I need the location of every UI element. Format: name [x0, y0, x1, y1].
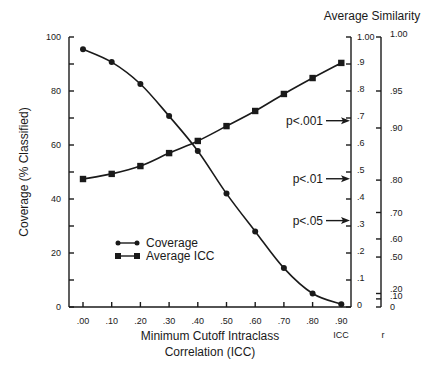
x-tick-label: .60: [249, 316, 262, 326]
icc-tick-label: .7: [357, 111, 365, 121]
x-tick-label: .20: [134, 316, 147, 326]
icc-tick-label: .5: [357, 165, 365, 175]
left-y-axis: 020406080100: [46, 32, 74, 312]
square-marker: [80, 176, 86, 182]
icc-tick-label: .2: [357, 246, 365, 256]
x-axis-title-line1: Minimum Cutoff Intraclass: [141, 329, 280, 343]
dual-axis-line-chart: 020406080100 .00.10.20.30.40.50.60.70.80…: [0, 0, 447, 368]
r-tick-label: 1.00: [390, 29, 408, 39]
circle-marker: [310, 291, 316, 297]
x-axis: .00.10.20.30.40.50.60.70.80.90: [69, 302, 351, 326]
square-marker: [137, 163, 143, 169]
circle-marker: [338, 301, 344, 307]
significance-label: p<.05: [293, 214, 324, 228]
x-tick-label: .70: [278, 316, 291, 326]
icc-tick-label: .4: [357, 192, 365, 202]
y-tick-label: 20: [51, 248, 61, 258]
x-tick-label: .10: [105, 316, 118, 326]
legend: CoverageAverage ICC: [115, 236, 215, 263]
y-tick-label: 100: [46, 32, 61, 42]
significance-label: p<.001: [286, 114, 323, 128]
icc-tick-label: .8: [357, 84, 365, 94]
r-right-axis: 0.10.20.50.60.70.80.90.951.00r: [376, 29, 408, 340]
r-tick-label: .60: [390, 234, 403, 244]
circle-marker: [137, 81, 143, 87]
square-marker: [338, 60, 344, 66]
icc-tick-label: .9: [357, 57, 365, 67]
r-axis-label: r: [382, 330, 385, 340]
y-axis-title: Coverage (% Classified): [17, 107, 31, 236]
x-axis-title-line2: Correlation (ICC): [165, 345, 256, 359]
x-tick-label: .80: [306, 316, 319, 326]
legend-label: Coverage: [146, 236, 198, 250]
legend-square-icon: [134, 253, 140, 259]
icc-axis-label: ICC: [333, 330, 349, 340]
y-tick-label: 40: [51, 194, 61, 204]
circle-marker: [166, 113, 172, 119]
legend-label: Average ICC: [146, 249, 215, 263]
r-tick-label: .80: [390, 175, 403, 185]
significance-annotations: p<.001p<.01p<.05: [286, 114, 350, 228]
icc-tick-label: .6: [357, 138, 365, 148]
square-marker: [223, 123, 229, 129]
significance-label: p<.01: [293, 172, 324, 186]
square-marker: [166, 150, 172, 156]
r-tick-label: .70: [390, 208, 403, 218]
square-marker: [281, 91, 287, 97]
legend-square-icon: [115, 253, 121, 259]
circle-marker: [224, 191, 230, 197]
icc-tick-label: .3: [357, 219, 365, 229]
circle-marker: [109, 59, 115, 65]
y-tick-label: 80: [51, 86, 61, 96]
r-tick-label: .50: [390, 252, 403, 262]
icc-tick-label: 1.00: [357, 32, 375, 42]
circle-marker: [80, 46, 86, 52]
icc-right-axis: 0.1.2.3.4.5.6.7.8.91.00ICC: [333, 32, 374, 340]
x-tick-label: .00: [77, 316, 90, 326]
y-tick-label: 60: [51, 140, 61, 150]
right-axis-title: Average Similarity: [324, 9, 420, 23]
circle-marker: [252, 228, 258, 234]
icc-tick-label: 0: [357, 300, 362, 310]
r-tick-label: .90: [390, 123, 403, 133]
r-tick-label: .20: [390, 284, 403, 294]
x-tick-label: .30: [163, 316, 176, 326]
r-tick-label: .95: [390, 86, 403, 96]
square-marker: [109, 171, 115, 177]
circle-marker: [281, 265, 287, 271]
legend-circle-icon: [135, 241, 140, 246]
x-tick-label: .50: [220, 316, 233, 326]
square-marker: [252, 108, 258, 114]
x-tick-label: .90: [335, 316, 348, 326]
legend-circle-icon: [116, 241, 121, 246]
y-tick-label: 0: [56, 302, 61, 312]
r-tick-label: 0: [390, 302, 395, 312]
circle-marker: [195, 148, 201, 154]
x-tick-label: .40: [192, 316, 205, 326]
icc-tick-label: .1: [357, 273, 365, 283]
square-marker: [309, 75, 315, 81]
square-marker: [195, 138, 201, 144]
